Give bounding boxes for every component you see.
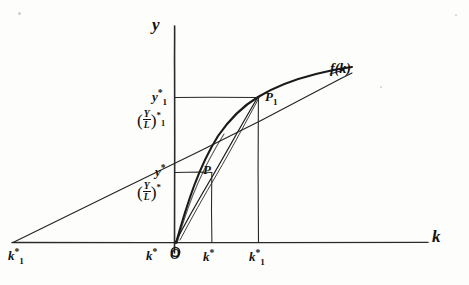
production-curve-group: [176, 67, 352, 243]
y-tick-label-y-star: y*: [155, 163, 166, 178]
production-function-label: f(k): [330, 62, 351, 76]
y-tick-y-star-1-sub: 1: [163, 97, 168, 107]
y-tick-label-y-star-1: y*1: [152, 88, 167, 107]
point-label-P: P: [203, 163, 211, 176]
x-axis-label: k: [432, 228, 441, 245]
diagram-drawing: [0, 0, 469, 285]
point-label-P1-base: P: [265, 89, 273, 104]
x-tick-label-k-star-1-right: k*1: [249, 248, 265, 267]
chord-line-group: [175, 96, 260, 243]
figure-canvas: y k f(k) P1 P y*1 (YL)*1 y* (YL)* k*1 k*…: [0, 0, 469, 285]
guide-lines-group: [175, 97, 258, 172]
x-tick-kstar-sup: *: [210, 247, 215, 258]
ratio-1-sub: 1: [161, 119, 165, 128]
drop-lines-group: [212, 98, 259, 242]
point-label-P1-sub: 1: [273, 97, 278, 107]
ratio-1-fraction: YL: [143, 109, 151, 130]
ratio-2-denominator: L: [143, 192, 151, 202]
chord-secondary-stroke: [180, 96, 260, 240]
production-curve: [176, 67, 352, 243]
y-axis-label: y: [152, 16, 160, 33]
ratio-2-fraction: YL: [143, 181, 151, 202]
x-tick-left-sub: 1: [19, 256, 24, 266]
y-tick-ratio-label-2: (YL)*: [137, 182, 161, 203]
y-tick-ratio-label-1: (YL)*1: [137, 110, 165, 131]
chord-through-P-and-P1: [175, 97, 258, 243]
paper-speck: [380, 86, 382, 88]
paper-speck: [455, 14, 457, 16]
origin-label: O: [170, 248, 180, 262]
x-tick-label-k-star: k*: [203, 248, 214, 263]
x-tick-neg-sup: *: [153, 246, 158, 257]
x-tick-label-k-star-1-left: k*1: [8, 247, 24, 266]
paper-speck: [18, 12, 21, 15]
x-tick-right-sub: 1: [260, 257, 265, 267]
x-tick-label-k-star-negative: k*: [146, 247, 157, 262]
y-tick-y-star-sup: *: [161, 162, 166, 173]
ratio-2-sup: *: [156, 182, 160, 192]
point-label-P1: P1: [265, 90, 278, 107]
ratio-1-denominator: L: [143, 120, 151, 130]
